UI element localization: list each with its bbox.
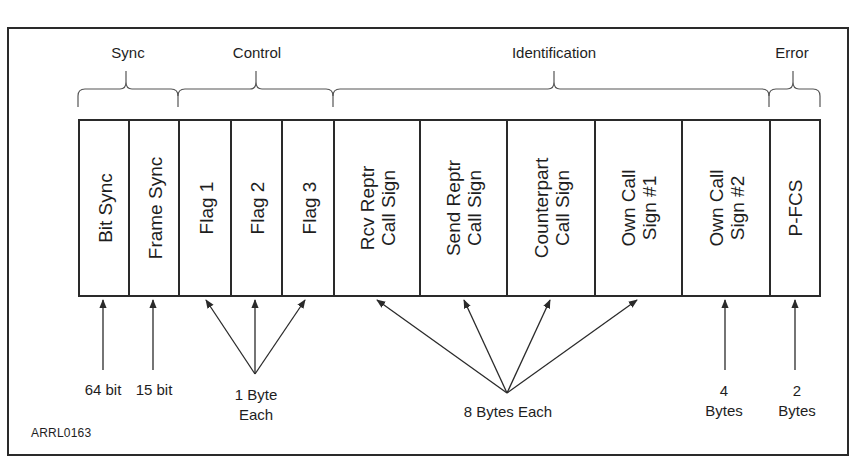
field-bit-sync: Bit Sync [78,119,129,297]
size-label-frame-sync: 15 bit [136,381,173,399]
group-braces [78,71,820,107]
size-label-call-signs: 8 Bytes Each [464,403,552,421]
size-label-own-call-sign-2: 4 Bytes [705,381,743,421]
field-label: Flag 2 [247,182,268,235]
field-flag-1: Flag 1 [178,119,231,297]
field-own-call-sign-1: Own Call Sign #1 [594,119,682,297]
figure-id: ARRL0163 [31,426,91,440]
group-label-error: Error [775,44,808,61]
field-label: Bit Sync [94,173,115,243]
size-arrows [103,300,795,393]
field-label: Own Call Sign #2 [706,169,748,246]
group-label-identification: Identification [512,44,596,61]
field-label: Frame Sync [144,157,165,259]
field-label: Flag 3 [298,182,319,235]
field-label: Send Reptr Call Sign [443,160,485,256]
group-label-control: Control [233,44,281,61]
field-rcv-reptr-call-sign: Rcv Reptr Call Sign [333,119,420,297]
field-counterpart-call-sign: Counterpart Call Sign [506,119,595,297]
field-frame-sync: Frame Sync [128,119,179,297]
field-send-reptr-call-sign: Send Reptr Call Sign [419,119,507,297]
field-label: Flag 1 [195,182,216,235]
size-label-flags: 1 Byte Each [235,385,278,425]
field-label: Own Call Sign #1 [618,169,660,246]
field-flag-3: Flag 3 [281,119,334,297]
field-flag-2: Flag 2 [230,119,282,297]
field-label: Rcv Reptr Call Sign [357,166,399,250]
field-label: Counterpart Call Sign [531,158,573,258]
field-p-fcs: P-FCS [769,119,821,297]
size-label-bit-sync: 64 bit [85,381,122,399]
field-own-call-sign-2: Own Call Sign #2 [681,119,770,297]
group-label-sync: Sync [111,44,144,61]
size-label-p-fcs: 2 Bytes [778,381,816,421]
field-label: P-FCS [785,180,806,237]
